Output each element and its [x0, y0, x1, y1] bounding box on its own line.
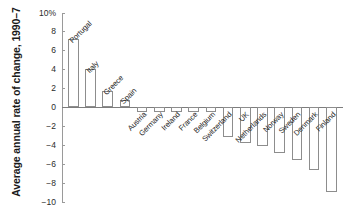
- y-tick-label-neg2: −2: [22, 121, 56, 131]
- y-tick-mark: [62, 164, 65, 165]
- bar-label-greece: Greece: [102, 73, 126, 97]
- y-tick-label-4: 4: [22, 64, 56, 74]
- y-tick-mark: [62, 50, 65, 51]
- y-tick-mark: [62, 31, 65, 32]
- plot-area: PortugalItalyGreeceSpainAustriaGermanyIr…: [62, 0, 343, 216]
- y-tick-label-neg4: −4: [22, 140, 56, 150]
- y-tick-mark: [62, 88, 65, 89]
- y-tick-mark: [62, 202, 65, 203]
- y-tick-mark: [62, 126, 65, 127]
- y-tick-mark: [62, 183, 65, 184]
- y-tick-mark: [62, 13, 65, 14]
- bar-label-portugal: Portugal: [67, 19, 93, 45]
- y-axis-tick-labels: 10%86420−2−4−6−8−10: [22, 0, 56, 216]
- y-tick-label-10: 10%: [22, 8, 56, 18]
- y-tick-mark: [62, 69, 65, 70]
- y-tick-label-8: 8: [22, 26, 56, 36]
- y-tick-label-6: 6: [22, 45, 56, 55]
- y-axis-title: Average annual rate of change, 1990–7: [10, 2, 22, 202]
- bar-portugal: [68, 39, 79, 107]
- y-tick-mark: [62, 145, 65, 146]
- y-tick-label-0: 0: [22, 102, 56, 112]
- y-tick-label-neg10: −10: [22, 197, 56, 207]
- y-tick-label-neg8: −8: [22, 178, 56, 188]
- y-tick-label-2: 2: [22, 83, 56, 93]
- y-tick-label-neg6: −6: [22, 159, 56, 169]
- bar-chart: Average annual rate of change, 1990–7 10…: [0, 0, 345, 216]
